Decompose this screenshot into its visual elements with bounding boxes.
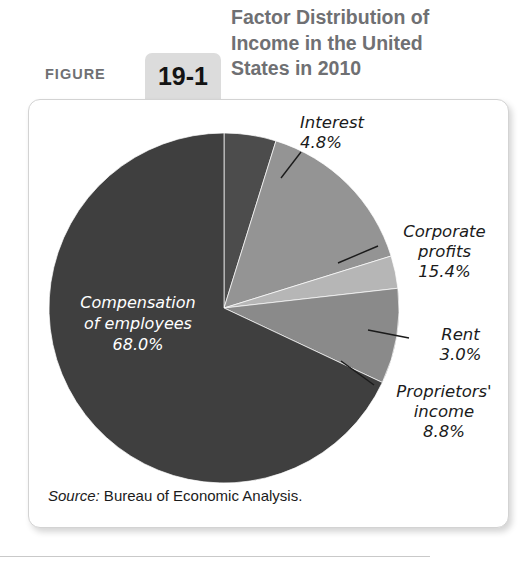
- slice-label-rent: Rent 3.0%: [413, 325, 508, 365]
- source-line: Source: Bureau of Economic Analysis.: [48, 487, 302, 504]
- figure-title: Factor Distribution of Income in the Uni…: [231, 5, 521, 82]
- slice-label-interest: Interest 4.8%: [300, 113, 410, 153]
- figure-header: FIGURE 19-1 Factor Distribution of Incom…: [0, 0, 525, 100]
- figure-number-tab: 19-1: [145, 53, 221, 100]
- slice-label-compensation: Compensation of employees 68.0%: [48, 292, 228, 355]
- slice-label-proprietors-income: Proprietors' income 8.8%: [378, 382, 510, 442]
- figure-word-label: FIGURE: [45, 66, 106, 82]
- figure-number-label: 19-1: [145, 53, 221, 100]
- slice-label-corporate-profits: Corporate profits 15.4%: [382, 222, 507, 282]
- source-text: Bureau of Economic Analysis.: [100, 487, 303, 504]
- source-label: Source:: [48, 487, 100, 504]
- bottom-divider: [0, 556, 430, 557]
